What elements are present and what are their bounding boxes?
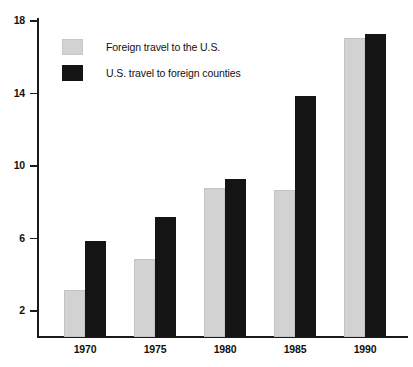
x-tick-label-1975: 1975 — [125, 343, 185, 355]
y-tick-label-2: 2 — [0, 305, 25, 316]
legend-item-us-travel: U.S. travel to foreign counties — [62, 62, 241, 84]
bar-light-1975 — [134, 259, 155, 337]
legend-swatch-light-gray-icon — [62, 39, 83, 55]
legend-swatch-black-icon — [62, 65, 83, 81]
bar-dark-1990 — [365, 34, 386, 337]
y-tick-18 — [30, 20, 38, 22]
y-tick-label-14: 14 — [0, 88, 25, 99]
chart-legend: Foreign travel to the U.S. U.S. travel t… — [62, 36, 241, 88]
y-tick-6 — [30, 238, 38, 240]
y-tick-10 — [30, 165, 38, 167]
x-tick-label-1990: 1990 — [335, 343, 395, 355]
bar-light-1985 — [274, 190, 295, 337]
bar-dark-1985 — [295, 96, 316, 337]
legend-item-foreign-travel: Foreign travel to the U.S. — [62, 36, 241, 58]
y-tick-2 — [30, 310, 38, 312]
bar-light-1980 — [204, 188, 225, 337]
bar-dark-1980 — [225, 179, 246, 337]
x-tick-label-1980: 1980 — [195, 343, 255, 355]
y-tick-14 — [30, 93, 38, 95]
bar-chart: 18 14 10 6 2 1970 1975 1980 1985 1990 Fo… — [0, 0, 413, 367]
bar-dark-1970 — [85, 241, 106, 337]
bar-light-1970 — [64, 290, 85, 337]
bar-light-1990 — [344, 38, 365, 337]
x-tick-label-1970: 1970 — [55, 343, 115, 355]
legend-label-foreign-travel: Foreign travel to the U.S. — [106, 41, 220, 53]
legend-label-us-travel: U.S. travel to foreign counties — [106, 67, 241, 79]
bar-dark-1975 — [155, 217, 176, 337]
y-tick-label-6: 6 — [0, 233, 25, 244]
y-axis-line — [37, 18, 39, 338]
y-tick-label-10: 10 — [0, 160, 25, 171]
x-tick-label-1985: 1985 — [265, 343, 325, 355]
y-tick-label-18: 18 — [0, 15, 25, 26]
